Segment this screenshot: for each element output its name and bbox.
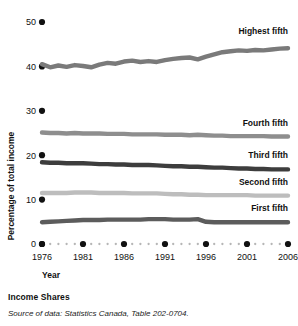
series-inline-labels: Highest fifthFourth fifthThird fifthSeco… [238,26,288,213]
income-shares-figure: 01020304050 1976198119861991199620012006… [0,0,298,326]
x-tick-dot-minor [238,243,240,245]
y-tick-label: 0 [31,239,36,249]
x-tick-dot-minor [49,243,51,245]
y-axis-title: Percentage of total income [6,131,16,240]
x-tick-dot-major [80,241,86,247]
x-axis-dot-track [39,241,291,247]
x-axis-title: Year [42,270,61,280]
x-tick-label: 1981 [73,252,93,262]
y-tick-label: 50 [26,17,36,27]
series-lines-group [42,48,288,222]
x-tick-label: 1976 [32,252,52,262]
y-tick-label: 10 [26,195,36,205]
x-axis-tick-labels: 1976198119861991199620012006 [32,252,298,262]
series-line [42,133,288,137]
x-tick-dot-minor [147,243,149,245]
x-tick-dot-minor [279,243,281,245]
series-label-third-fifth: Third fifth [248,150,288,160]
x-tick-label: 2001 [237,252,257,262]
x-tick-dot-minor [172,243,174,245]
series-line [42,192,288,195]
y-tick-label: 20 [26,151,36,161]
x-tick-dot-minor [115,243,117,245]
y-tick-label: 30 [26,106,36,116]
x-tick-dot-minor [65,243,67,245]
x-tick-dot-minor [156,243,158,245]
x-tick-dot-major [121,241,127,247]
y-tick-dot [39,197,45,203]
x-tick-dot-minor [74,243,76,245]
x-tick-dot-minor [254,243,256,245]
x-tick-dot-minor [98,243,100,245]
x-tick-dot-minor [139,243,141,245]
series-line [42,48,288,67]
x-tick-dot-minor [197,243,199,245]
y-tick-label: 40 [26,62,36,72]
line-chart-canvas: 01020304050 1976198119861991199620012006… [0,0,298,326]
x-tick-dot-major [203,241,209,247]
x-tick-dot-major [162,241,168,247]
series-label-highest-fifth: Highest fifth [238,26,288,36]
x-tick-dot-minor [221,243,223,245]
x-tick-dot-minor [106,243,108,245]
series-label-first-fifth: First fifth [251,203,288,213]
series-line [42,162,288,169]
x-tick-dot-major [285,241,291,247]
figure-caption-title: Income Shares [8,292,70,302]
x-tick-dot-minor [213,243,215,245]
x-tick-dot-minor [270,243,272,245]
series-label-fourth-fifth: Fourth fifth [243,118,288,128]
x-tick-dot-minor [229,243,231,245]
x-tick-label: 1991 [155,252,175,262]
y-tick-dot [39,19,45,25]
x-tick-dot-major [244,241,250,247]
x-tick-dot-major [39,241,45,247]
x-tick-dot-minor [262,243,264,245]
x-tick-dot-minor [188,243,190,245]
series-label-second-fifth: Second fifth [239,177,288,187]
x-tick-label: 1996 [196,252,216,262]
y-tick-dot [39,152,45,158]
x-tick-dot-minor [131,243,133,245]
x-tick-dot-minor [180,243,182,245]
x-tick-dot-minor [57,243,59,245]
x-tick-dot-minor [90,243,92,245]
x-tick-label: 1986 [114,252,134,262]
figure-source-note: Source of data: Statistics Canada, Table… [8,309,189,318]
series-line [42,219,288,222]
y-axis-tick-labels: 01020304050 [26,17,36,249]
x-tick-label: 2006 [278,252,298,262]
y-tick-dot [39,108,45,114]
